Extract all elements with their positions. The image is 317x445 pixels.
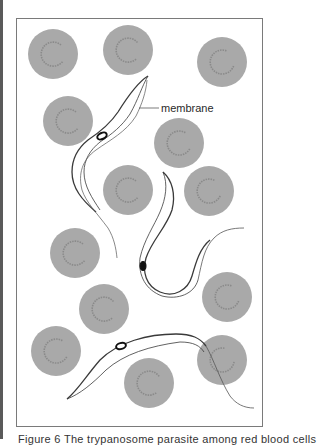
red-blood-cell	[31, 326, 81, 376]
red-blood-cell	[43, 96, 93, 146]
red-blood-cell-disc	[31, 326, 81, 376]
red-blood-cell	[103, 25, 153, 75]
red-blood-cell-disc	[202, 272, 252, 322]
red-blood-cell-disc	[28, 29, 78, 79]
trypanosome-2-nucleus	[140, 262, 146, 271]
red-blood-cell-disc	[197, 335, 247, 385]
red-blood-cell-disc	[184, 166, 234, 216]
red-blood-cell-disc	[154, 118, 204, 168]
red-blood-cell	[197, 335, 247, 385]
membrane-label: membrane	[161, 102, 214, 114]
red-blood-cell	[50, 228, 100, 278]
red-blood-cell-disc	[79, 284, 129, 334]
trypanosome-2-flagellum	[198, 228, 244, 280]
trypanosome-3-nucleus	[115, 342, 126, 350]
red-blood-cell-disc	[103, 165, 153, 215]
red-blood-cell-disc	[124, 358, 174, 408]
red-blood-cell	[79, 284, 129, 334]
red-blood-cell-disc	[103, 25, 153, 75]
red-blood-cell-disc	[43, 96, 93, 146]
red-blood-cell	[202, 272, 252, 322]
red-blood-cell	[103, 165, 153, 215]
red-blood-cell-disc	[197, 37, 247, 87]
figure-caption: Figure 6 The trypanosome parasite among …	[18, 433, 316, 445]
red-blood-cell	[28, 29, 78, 79]
red-blood-cell	[184, 166, 234, 216]
red-blood-cell	[197, 37, 247, 87]
red-blood-cell	[154, 118, 204, 168]
red-blood-cell-disc	[50, 228, 100, 278]
red-blood-cell	[124, 358, 174, 408]
